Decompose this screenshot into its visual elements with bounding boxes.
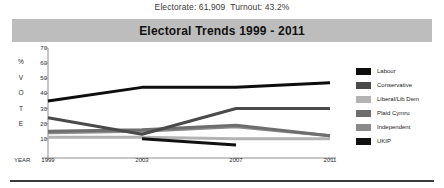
legend-color-swatch — [356, 124, 371, 131]
legend-item-label: Plaid Cymru — [377, 110, 410, 116]
legend-item[interactable]: Independent — [356, 120, 444, 134]
series-line — [48, 137, 330, 139]
x-axis-tick-labels: YEAR1999200320072011 — [0, 156, 360, 172]
page-title: Electoral Trends 1999 - 2011 — [139, 24, 305, 38]
legend-color-swatch — [356, 82, 371, 89]
series-line — [48, 83, 330, 101]
chart-legend: LabourConservativeLiberal/Lib DemPlaid C… — [356, 64, 444, 148]
legend-item[interactable]: UKIP — [356, 134, 444, 148]
chart-title-bar: Electoral Trends 1999 - 2011 — [12, 19, 432, 42]
series-line — [48, 125, 330, 136]
legend-item-label: UKIP — [377, 138, 391, 144]
legend-item[interactable]: Plaid Cymru — [356, 106, 444, 120]
legend-item-label: Labour — [377, 68, 396, 74]
x-axis-tick-label: 2011 — [324, 157, 337, 163]
legend-item[interactable]: Liberal/Lib Dem — [356, 92, 444, 106]
electoral-trends-chart-panel: Electorate: 61,909 Turnout: 43.2% Electo… — [0, 0, 444, 188]
legend-item[interactable]: Labour — [356, 64, 444, 78]
legend-item-label: Independent — [377, 124, 410, 130]
x-axis-tick-label: 2003 — [135, 157, 148, 163]
line-chart-svg — [0, 44, 360, 160]
x-axis-tick-label: 2007 — [229, 157, 242, 163]
legend-item[interactable]: Conservative — [356, 78, 444, 92]
footer-divider — [10, 180, 434, 182]
legend-color-swatch — [356, 110, 371, 117]
legend-color-swatch — [356, 96, 371, 103]
legend-item-label: Conservative — [377, 82, 412, 88]
x-axis-tick-label: 1999 — [41, 157, 54, 163]
x-axis-caption: YEAR — [14, 157, 30, 163]
legend-color-swatch — [356, 138, 371, 145]
legend-item-label: Liberal/Lib Dem — [377, 96, 419, 102]
electorate-turnout-summary: Electorate: 61,909 Turnout: 43.2% — [0, 2, 444, 12]
legend-color-swatch — [356, 68, 371, 75]
